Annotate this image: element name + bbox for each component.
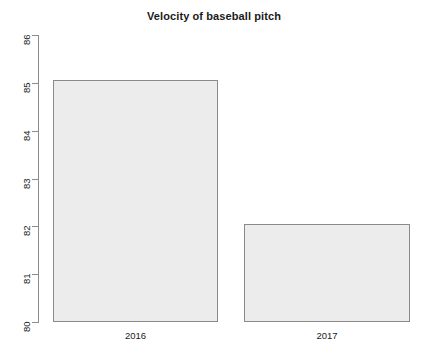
y-axis-tick xyxy=(32,131,38,132)
y-axis-tick xyxy=(32,226,38,227)
x-axis-label: 2017 xyxy=(316,330,337,341)
chart-title: Velocity of baseball pitch xyxy=(0,10,428,22)
y-axis-tick-label: 80 xyxy=(21,322,32,348)
y-axis-tick xyxy=(32,322,38,323)
y-axis-tick-label: 86 xyxy=(21,35,32,61)
y-axis-tick-label: 84 xyxy=(21,130,32,156)
x-axis-label: 2016 xyxy=(125,330,146,341)
y-axis-tick-label: 82 xyxy=(21,226,32,252)
y-axis-tick xyxy=(32,179,38,180)
y-axis-tick xyxy=(32,35,38,36)
y-axis-tick-label: 83 xyxy=(21,178,32,204)
y-axis-line xyxy=(38,35,39,323)
bar-chart: Velocity of baseball pitch 8685848382818… xyxy=(0,0,428,357)
bar xyxy=(53,80,218,322)
y-axis-tick xyxy=(32,274,38,275)
bar xyxy=(244,224,410,322)
y-axis-tick xyxy=(32,83,38,84)
y-axis-tick-label: 85 xyxy=(21,82,32,108)
y-axis-tick-label: 81 xyxy=(21,274,32,300)
